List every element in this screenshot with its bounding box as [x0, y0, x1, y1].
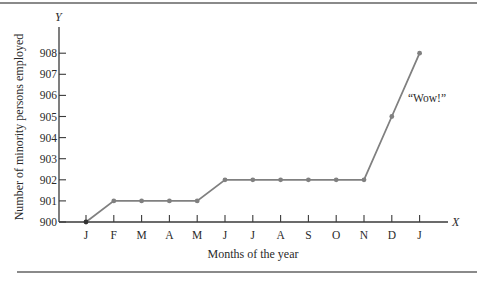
- data-point: [250, 177, 255, 182]
- y-tick-label: 907: [40, 68, 58, 80]
- y-axis-title: Number of minority persons employed: [12, 34, 26, 221]
- x-tick-label: M: [136, 229, 146, 241]
- data-point: [84, 220, 89, 225]
- x-tick-label: S: [305, 229, 311, 241]
- data-point: [334, 177, 339, 182]
- x-tick-label: A: [165, 229, 174, 241]
- data-point: [389, 114, 394, 119]
- y-tick-label: 901: [40, 195, 58, 207]
- data-point: [223, 177, 228, 182]
- data-point: [195, 199, 200, 204]
- line-chart: 900901902903904905906907908 JFMAMJJASOND…: [0, 0, 477, 282]
- x-tick-label: O: [332, 229, 340, 241]
- data-point: [167, 199, 172, 204]
- x-tick-label: D: [388, 229, 396, 241]
- data-point: [111, 199, 116, 204]
- x-axis-title: Months of the year: [208, 247, 299, 261]
- x-tick-label: M: [192, 229, 202, 241]
- data-series: [84, 51, 422, 225]
- x-tick-label: A: [276, 229, 285, 241]
- series-line: [86, 53, 420, 222]
- y-tick-label: 903: [40, 153, 58, 165]
- x-tick-label: F: [111, 229, 117, 241]
- data-point: [278, 177, 283, 182]
- y-axis: 900901902903904905906907908: [40, 27, 66, 228]
- data-point: [362, 177, 367, 182]
- wow-annotation: “Wow!”: [408, 92, 446, 104]
- y-tick-label: 902: [40, 174, 58, 186]
- data-point: [417, 51, 422, 56]
- data-point: [139, 199, 144, 204]
- x-tick-label: J: [417, 229, 422, 241]
- x-tick-label: J: [223, 229, 228, 241]
- y-tick-label: 904: [40, 132, 58, 144]
- data-point: [306, 177, 311, 182]
- x-tick-label: N: [360, 229, 369, 241]
- x-tick-label: J: [84, 229, 89, 241]
- x-axis-letter: X: [451, 215, 460, 229]
- y-axis-letter: Y: [55, 10, 63, 24]
- y-tick-label: 908: [40, 47, 58, 59]
- x-tick-label: J: [251, 229, 256, 241]
- y-tick-label: 905: [40, 111, 58, 123]
- x-axis: JFMAMJJASONDJ: [59, 215, 448, 241]
- y-tick-label: 900: [40, 216, 58, 228]
- y-tick-label: 906: [40, 89, 58, 101]
